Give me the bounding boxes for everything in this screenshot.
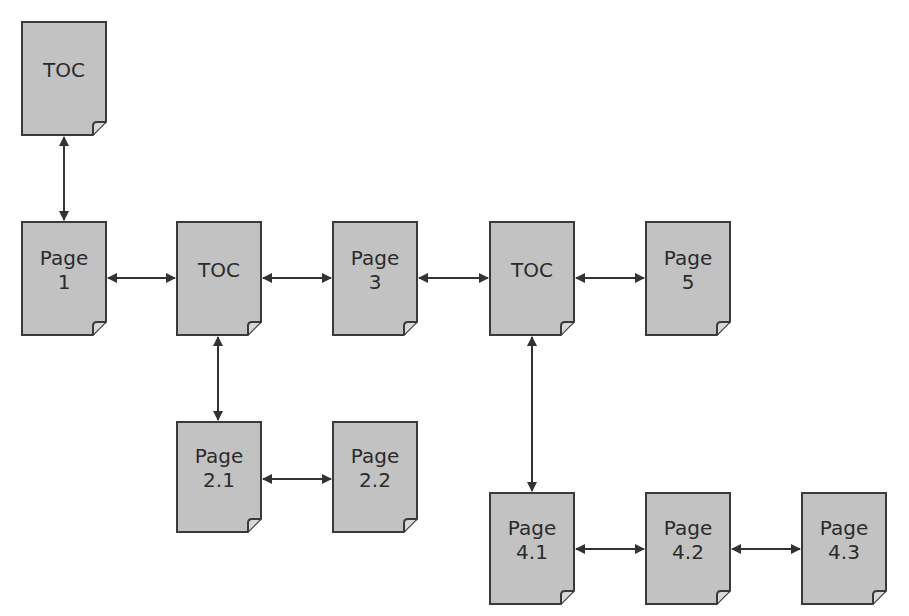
- node-label-line1: Page: [351, 444, 399, 468]
- node-page-4-1: Page 4.1: [489, 492, 575, 605]
- node-page-5: Page 5: [645, 221, 731, 336]
- node-page-1: Page 1: [21, 221, 107, 336]
- node-label-line2: 2.2: [359, 468, 391, 492]
- node-label-line1: Page: [664, 516, 712, 540]
- node-label-line1: Page: [508, 516, 556, 540]
- node-label-line2: 4.3: [828, 540, 860, 564]
- node-label-line2: 2.1: [203, 468, 235, 492]
- node-page-4-2: Page 4.2: [645, 492, 731, 605]
- node-toc-2: TOC: [176, 221, 262, 336]
- site-navigation-diagram: TOC Page 1 TOC Page 3 TOC Page 5: [0, 0, 909, 616]
- node-label-line1: TOC: [511, 258, 553, 282]
- node-label-line2: 5: [682, 270, 695, 294]
- node-label-line2: 3: [369, 270, 382, 294]
- node-label-line2: 4.1: [516, 540, 548, 564]
- node-toc-4: TOC: [489, 221, 575, 336]
- node-label-line1: Page: [40, 246, 88, 270]
- node-label-line1: Page: [664, 246, 712, 270]
- node-label-line2: 1: [58, 270, 71, 294]
- node-label-line1: TOC: [43, 58, 85, 82]
- node-page-2-2: Page 2.2: [332, 421, 418, 533]
- node-label-line1: TOC: [198, 258, 240, 282]
- node-label-line2: 4.2: [672, 540, 704, 564]
- node-page-3: Page 3: [332, 221, 418, 336]
- connector-layer: [0, 0, 909, 616]
- node-toc-top: TOC: [21, 21, 107, 136]
- node-label-line1: Page: [820, 516, 868, 540]
- node-page-4-3: Page 4.3: [801, 492, 887, 605]
- node-label-line1: Page: [351, 246, 399, 270]
- node-page-2-1: Page 2.1: [176, 421, 262, 533]
- node-label-line1: Page: [195, 444, 243, 468]
